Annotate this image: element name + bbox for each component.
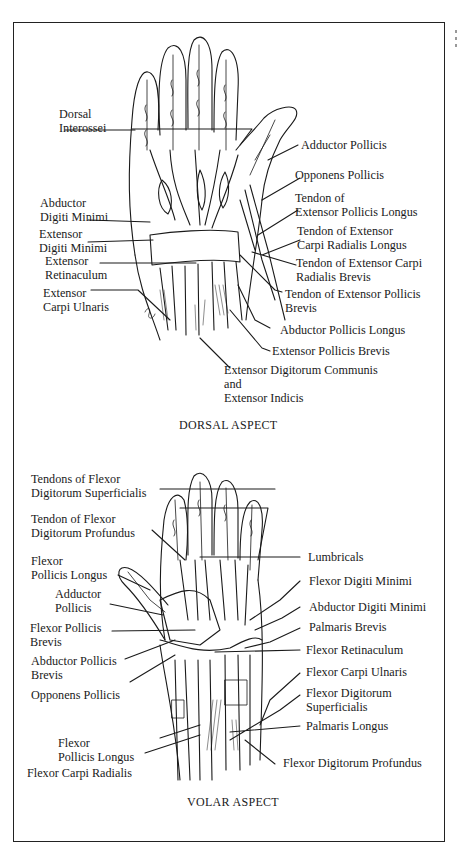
label-tendon-extensor-carpi-radialis-longus: Tendon of Extensor Carpi Radialis Longus <box>297 224 407 252</box>
label-extensor-retinaculum: Extensor Retinaculum <box>45 254 107 282</box>
label-opponens-pollicis: Opponens Pollicis <box>295 168 384 182</box>
label-extensor-pollicis-brevis: Extensor Pollicis Brevis <box>272 344 390 358</box>
label-abductor-pollicis-longus: Abductor Pollicis Longus <box>280 323 405 337</box>
label-tendon-extensor-pollicis-brevis: Tendon of Extensor Pollicis Brevis <box>285 287 421 315</box>
label-extensor-carpi-ulnaris: Extensor Carpi Ulnaris <box>43 286 109 314</box>
label-flexor-carpi-radialis: Flexor Carpi Radialis <box>27 766 132 780</box>
label-dorsal-interossei: Dorsal Interossei <box>59 107 106 135</box>
label-abductor-pollicis-brevis: Abductor Pollicis Brevis <box>31 654 117 682</box>
label-lumbricals: Lumbricals <box>308 550 364 564</box>
label-flexor-digitorum-profundus: Flexor Digitorum Profundus <box>283 756 422 770</box>
label-flexor-pollicis-longus-upper: Flexor Pollicis Longus <box>31 554 107 582</box>
label-adductor-pollicis: Adductor Pollicis <box>301 138 387 152</box>
label-extensor-digiti-minimi: Extensor Digiti Minimi <box>39 227 107 255</box>
caption-dorsal-aspect: DORSAL ASPECT <box>179 418 277 433</box>
label-flexor-pollicis-brevis: Flexor Pollicis Brevis <box>30 621 101 649</box>
label-tendons-flexor-digitorum-superficialis: Tendons of Flexor Digitorum Superficiali… <box>31 472 146 500</box>
label-tendon-extensor-carpi-radialis-brevis: Tendon of Extensor Carpi Radialis Brevis <box>296 256 422 284</box>
label-abductor-digiti-minimi: Abductor Digiti Minimi <box>309 600 426 614</box>
label-flexor-digiti-minimi: Flexor Digiti Minimi <box>309 574 412 588</box>
label-abductor-digiti-minimi: Abductor Digiti Minimi <box>40 196 108 224</box>
label-opponens-pollicis: Opponens Pollicis <box>31 688 120 702</box>
label-adductor-pollicis: Adductor Pollicis <box>55 587 101 615</box>
label-flexor-retinaculum: Flexor Retinaculum <box>306 643 403 657</box>
label-tendon-extensor-pollicis-longus: Tendon of Extensor Pollicis Longus <box>295 191 418 219</box>
label-extensor-digitorum-communis-indicis: Extensor Digitorum Communis and Extensor… <box>224 363 378 405</box>
label-palmaris-longus: Palmaris Longus <box>306 719 388 733</box>
label-flexor-digitorum-superficialis: Flexor Digitorum Superficialis <box>306 686 392 714</box>
label-tendon-flexor-digitorum-profundus: Tendon of Flexor Digitorum Profundus <box>31 512 135 540</box>
volar-hand-drawing <box>110 473 300 780</box>
label-flexor-pollicis-longus-lower: Flexor Pollicis Longus <box>58 736 134 764</box>
label-palmaris-brevis: Palmaris Brevis <box>309 620 387 634</box>
caption-volar-aspect: VOLAR ASPECT <box>187 795 279 810</box>
label-flexor-carpi-ulnaris: Flexor Carpi Ulnaris <box>306 665 407 679</box>
